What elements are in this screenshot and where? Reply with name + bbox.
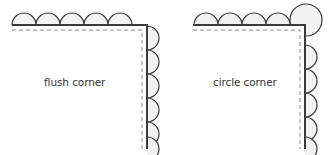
dashed-guide-line — [193, 30, 300, 149]
circle-corner-label: circle corner — [213, 76, 277, 88]
flush-corner-label: flush corner — [44, 76, 105, 88]
dashed-guide-line — [12, 30, 142, 149]
